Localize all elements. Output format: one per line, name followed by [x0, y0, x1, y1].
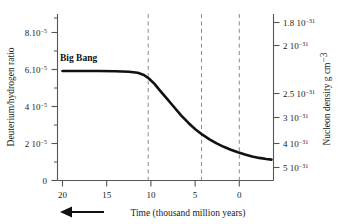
x-tick-label-10: 10 — [146, 190, 156, 200]
left-tick-label-0: 0 — [43, 176, 48, 186]
x-tick-label-20: 20 — [58, 190, 68, 200]
x-tick-label-0: 0 — [237, 190, 242, 200]
x-tick-label-15: 15 — [102, 190, 112, 200]
bottom-axis-title: Time (thousand million years) — [131, 208, 246, 219]
chart-figure: 0 2 10−5 4 10−5 6.10−5 8.10−5 1.8 10−31 … — [0, 0, 339, 224]
x-tick-label-5: 5 — [193, 190, 198, 200]
left-axis-title: Deuterium/hydrogen ratio — [6, 47, 16, 146]
big-bang-annotation: Big Bang — [60, 53, 97, 63]
deuterium-nucleon-density-chart: 0 2 10−5 4 10−5 6.10−5 8.10−5 1.8 10−31 … — [0, 0, 339, 224]
